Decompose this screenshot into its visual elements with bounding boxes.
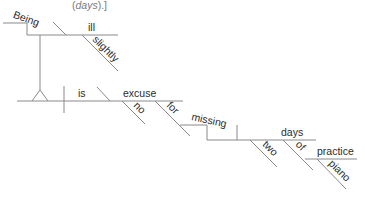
word-missing: missing: [191, 110, 228, 129]
sentence-diagram: (days).] Being ill slightly is excuse no…: [0, 0, 365, 198]
word-practice: practice: [317, 145, 354, 157]
predicate-noun-slash-line: [97, 87, 110, 101]
gerund-phrase: Being ill slightly: [3, 8, 122, 71]
word-piano: piano: [327, 157, 354, 184]
word-two: two: [261, 138, 281, 158]
word-is: is: [78, 87, 86, 99]
prepositional-phrase-for: for missing days two: [155, 99, 316, 167]
caption-text: (days).]: [72, 0, 107, 11]
main-clause: is excuse no: [17, 86, 183, 124]
word-being: Being: [12, 8, 41, 29]
word-excuse: excuse: [123, 87, 156, 99]
pedestal: [32, 35, 48, 101]
word-ill: ill: [88, 21, 95, 33]
word-days: days: [281, 126, 303, 138]
prepositional-phrase-of: of practice piano: [283, 138, 357, 189]
complement-slash-line: [53, 22, 66, 35]
pedestal-fork: [32, 90, 48, 101]
